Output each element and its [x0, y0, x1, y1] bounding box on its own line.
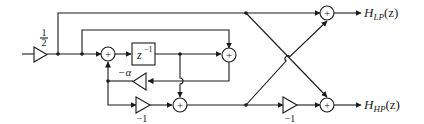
adder-3: +: [173, 98, 187, 112]
svg-text:+: +: [226, 49, 232, 61]
bypass-line-top: [58, 13, 320, 54]
svg-text:+: +: [105, 48, 111, 60]
output-gain-label: −1: [285, 113, 296, 124]
lowpass-output-label: HLP(z): [363, 5, 398, 22]
cross-line-to-lp: [246, 21, 327, 105]
svg-text:+: +: [324, 99, 330, 111]
cross-line-to-hp: [246, 13, 327, 97]
highpass-adder: +: [320, 98, 334, 112]
delay-to-adder-3: [180, 54, 183, 97]
adder-2: +: [222, 48, 236, 62]
output-gain-triangle: [283, 97, 297, 113]
inner-gain-label: −1: [137, 113, 148, 124]
highpass-output-label: HHP(z): [363, 97, 400, 114]
feedback-gain-triangle: [133, 73, 146, 90]
svg-text:+: +: [324, 7, 330, 19]
lowpass-adder: +: [320, 6, 334, 20]
feedback-line: [148, 62, 229, 81]
feedback-gain-label: −α: [118, 66, 131, 78]
adder-1: +: [101, 47, 115, 61]
input-gain-denominator: 2: [42, 37, 47, 48]
allpass-filter-diagram: 1 2 + z −1 + −α −1: [0, 0, 424, 124]
svg-text:+: +: [177, 99, 183, 111]
svg-text:z: z: [136, 48, 142, 62]
inner-gain-triangle: [136, 97, 150, 113]
svg-text:−1: −1: [144, 45, 153, 54]
input-gain-triangle: [34, 47, 47, 62]
delay-block: z −1: [132, 43, 155, 65]
lower-path: [108, 81, 136, 105]
